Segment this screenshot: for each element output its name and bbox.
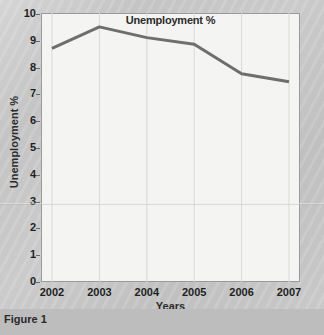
figure-page: Unemployment % 012345678910 200220032004… <box>0 0 324 335</box>
unemployment-line-chart: Unemployment % 012345678910 200220032004… <box>0 0 324 309</box>
figure-caption: Figure 1 <box>4 313 47 325</box>
x-tick-label: 2006 <box>219 286 265 298</box>
x-tick-label: 2004 <box>124 286 170 298</box>
x-tick-label: 2003 <box>76 286 122 298</box>
x-axis-ticks: 200220032004200520062007 <box>0 0 324 309</box>
x-tick-label: 2005 <box>171 286 217 298</box>
x-tick-label: 2002 <box>29 286 75 298</box>
page-bottom-strip <box>0 309 324 335</box>
x-tick-label: 2007 <box>266 286 312 298</box>
y-axis-title: Unemployment % <box>8 77 20 207</box>
